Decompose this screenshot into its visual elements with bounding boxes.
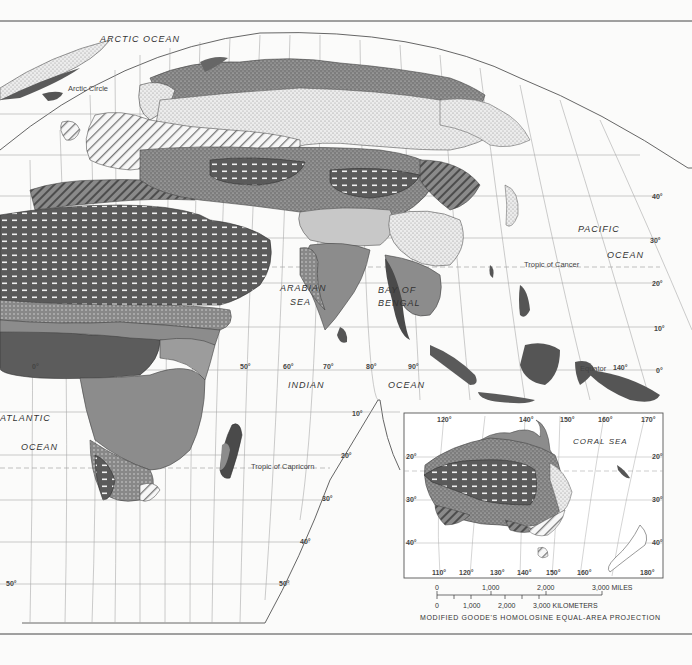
scale-bar [437, 591, 602, 599]
inset-left-30: 30° [406, 496, 417, 503]
lon-70: 70° [323, 363, 334, 370]
tibet-highland [299, 208, 394, 246]
label-arabian: ARABIAN [280, 283, 327, 293]
scale-miles-3000: 3,000 MILES [592, 584, 632, 591]
south-africa-coast [140, 483, 160, 501]
lon-90: 90° [408, 363, 419, 370]
label-pacific: PACIFIC [578, 224, 620, 234]
lon-60: 60° [283, 363, 294, 370]
inset-top-160: 160° [598, 416, 612, 423]
lat-s20: 20° [341, 452, 352, 459]
inset-bottom-150: 150° [546, 569, 560, 576]
lat-n40: 40° [652, 193, 663, 200]
lat-s10: 10° [352, 410, 363, 417]
lat-s50-left: 50° [6, 580, 17, 587]
projection-caption: MODIFIED GOODE'S HOMOLOSINE EQUAL-AREA P… [420, 614, 661, 621]
label-pacific-ocean: OCEAN [607, 250, 644, 260]
lat-n10: 10° [654, 325, 665, 332]
inset-top-120: 120° [437, 416, 451, 423]
lon-80: 80° [366, 363, 377, 370]
scale-miles-0: 0 [435, 584, 439, 591]
lat-s50-right: 50° [279, 580, 290, 587]
inset-top-150: 150° [560, 416, 574, 423]
inset-bottom-110: 110° [432, 569, 446, 576]
scale-miles-2000: 2,000 [537, 584, 555, 591]
lat-n20: 20° [652, 280, 663, 287]
world-climate-map [0, 0, 692, 665]
inset-bottom-120: 120° [459, 569, 473, 576]
inset-left-20: 20° [406, 453, 417, 460]
label-tropic-of-capricorn: Tropic of Capricorn [251, 462, 315, 471]
inset-bottom-160: 160° [577, 569, 591, 576]
label-atlantic-ocean: OCEAN [21, 442, 58, 452]
scale-km-1000: 1,000 [463, 602, 481, 609]
japan [505, 185, 518, 226]
sumatra [430, 345, 477, 385]
manchuria [420, 160, 480, 210]
inset-top-170: 170° [641, 416, 655, 423]
new-guinea [590, 370, 660, 402]
sahara-arabia-desert [0, 205, 271, 307]
lon-0: 0° [32, 363, 39, 370]
lat-equator: 0° [656, 367, 663, 374]
inset-top-140: 140° [519, 416, 533, 423]
inset-bottom-180: 180° [640, 569, 654, 576]
scale-miles-1000: 1,000 [482, 584, 500, 591]
label-equator: Equator [580, 364, 606, 373]
british-isles [61, 121, 80, 140]
sri-lanka [337, 327, 347, 343]
label-indian-ocean: OCEAN [388, 380, 425, 390]
iceland [42, 92, 63, 101]
label-coral-sea: CORAL SEA [573, 437, 628, 446]
label-arctic-circle: Arctic Circle [68, 84, 108, 93]
lat-s40: 40° [300, 538, 311, 545]
philippines [519, 285, 530, 317]
label-indian: INDIAN [288, 380, 325, 390]
label-bay-of: BAY OF [378, 285, 416, 295]
lon-50: 50° [240, 363, 251, 370]
scale-km-3000: 3,000 KILOMETERS [533, 602, 598, 609]
scale-km-2000: 2,000 [498, 602, 516, 609]
borneo [520, 343, 560, 385]
lat-s30: 30° [322, 495, 333, 502]
scale-km-0: 0 [435, 602, 439, 609]
label-tropic-of-cancer: Tropic of Cancer [524, 260, 579, 269]
label-arctic-ocean: ARCTIC OCEAN [100, 34, 180, 44]
label-bengal: BENGAL [378, 298, 421, 308]
lon-140: 140° [613, 364, 627, 371]
inset-right-40: 40° [652, 539, 663, 546]
label-arabian-sea: SEA [290, 297, 311, 307]
inset-bottom-130: 130° [490, 569, 504, 576]
lat-n30: 30° [650, 237, 661, 244]
inset-bottom-140: 140° [517, 569, 531, 576]
java [478, 392, 535, 403]
inset-right-20: 20° [652, 453, 663, 460]
label-atlantic: ATLANTIC [0, 413, 51, 423]
inset-right-30: 30° [652, 496, 663, 503]
inset-left-40: 40° [406, 539, 417, 546]
